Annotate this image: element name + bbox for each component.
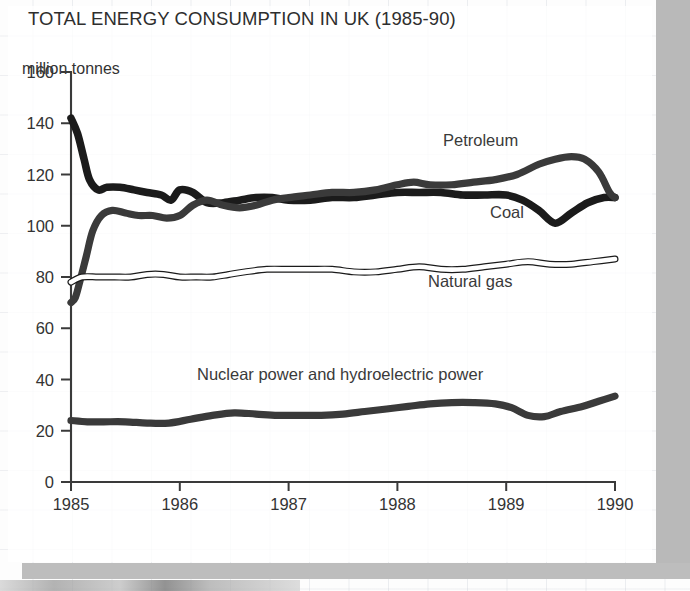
y-axis-tick-label: 160 bbox=[10, 63, 54, 82]
scanned-page: TOTAL ENERGY CONSUMPTION IN UK (1985-90)… bbox=[0, 0, 690, 591]
x-axis-tick-label: 1987 bbox=[259, 495, 319, 514]
series-label-natural-gas: Natural gas bbox=[428, 272, 512, 291]
series-label-petroleum: Petroleum bbox=[443, 131, 518, 150]
scan-edge-artifact bbox=[0, 580, 300, 591]
series-label-coal: Coal bbox=[490, 203, 524, 222]
series-line bbox=[71, 396, 615, 423]
series-nuclear-power-and-hydroelectric-power bbox=[71, 396, 615, 423]
y-axis-tick-label: 20 bbox=[10, 421, 54, 440]
scan-band-right bbox=[656, 0, 690, 578]
x-axis-tick-label: 1985 bbox=[41, 495, 101, 514]
x-axis-tick-label: 1986 bbox=[150, 495, 210, 514]
x-axis-tick-label: 1990 bbox=[585, 495, 645, 514]
y-axis-tick-label: 140 bbox=[10, 114, 54, 133]
series-label-nuclear-power-and-hydroelectric-power: Nuclear power and hydroelectric power bbox=[197, 365, 483, 384]
series-natural-gas bbox=[71, 259, 615, 282]
y-axis-tick-label: 0 bbox=[10, 473, 54, 492]
series-line bbox=[71, 157, 615, 303]
y-axis-tick-label: 100 bbox=[10, 216, 54, 235]
y-axis-tick-label: 40 bbox=[10, 370, 54, 389]
x-axis-tick-label: 1988 bbox=[367, 495, 427, 514]
scan-band-bottom bbox=[22, 563, 690, 579]
y-axis-tick-label: 60 bbox=[10, 319, 54, 338]
line-chart: 020406080100120140160 198519861987198819… bbox=[0, 0, 690, 591]
series-petroleum bbox=[71, 157, 615, 303]
y-axis-tick-label: 120 bbox=[10, 165, 54, 184]
x-axis-tick-label: 1989 bbox=[476, 495, 536, 514]
y-axis-tick-label: 80 bbox=[10, 268, 54, 287]
series-line-fill bbox=[71, 259, 615, 282]
